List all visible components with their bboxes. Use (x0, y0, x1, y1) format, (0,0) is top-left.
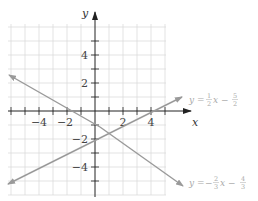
svg-text:1: 1 (207, 92, 211, 100)
x-tick-label: 4 (148, 116, 155, 129)
svg-text:2: 2 (214, 175, 218, 183)
svg-text:2: 2 (207, 100, 211, 108)
x-tick-label: −4 (31, 116, 47, 129)
coordinate-plane: −4 −2 2 4 4 2 −2 −4 y x y = 1 2 x − 5 2 … (0, 0, 258, 201)
y-tick-label: 2 (81, 77, 88, 90)
x-axis-label: x (192, 116, 199, 129)
svg-text:5: 5 (233, 92, 237, 100)
x-tick-label: −2 (57, 116, 73, 129)
svg-text:3: 3 (241, 183, 245, 191)
svg-text:x: x (213, 95, 218, 105)
svg-text:y: y (188, 178, 195, 188)
y-tick-label: −2 (72, 133, 88, 146)
svg-text:=: = (197, 95, 205, 105)
svg-text:3: 3 (214, 183, 218, 191)
svg-text:2: 2 (233, 100, 237, 108)
line-1-upper (28, 97, 182, 174)
line-2-lower (100, 127, 183, 186)
equation-label-1: y = 1 2 x − 5 2 (188, 92, 238, 108)
y-axis-label: y (81, 7, 89, 20)
svg-text:y: y (188, 95, 195, 105)
svg-text:−: − (221, 95, 229, 105)
y-tick-label: 4 (81, 49, 88, 62)
svg-text:−: − (205, 178, 213, 188)
svg-text:=: = (197, 178, 205, 188)
svg-text:4: 4 (241, 175, 245, 183)
equation-label-2: y = − 2 3 x − 4 3 (188, 175, 246, 191)
y-tick-label: −4 (72, 161, 88, 174)
svg-text:−: − (228, 178, 236, 188)
svg-text:x: x (220, 178, 225, 188)
